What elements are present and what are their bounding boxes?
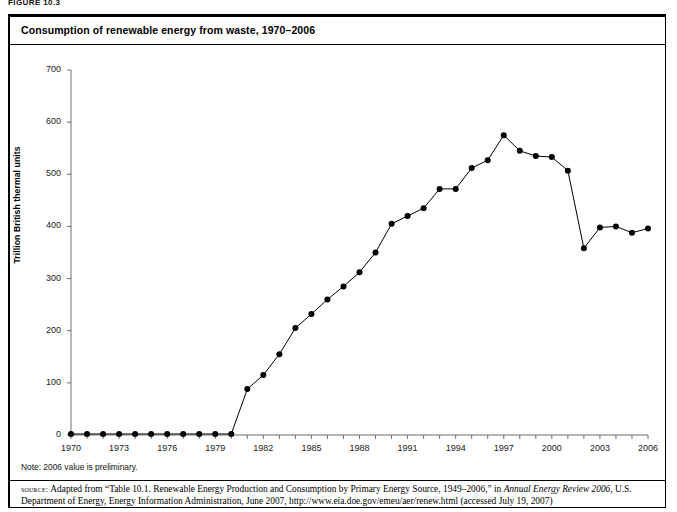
data-point xyxy=(308,311,314,317)
y-tick-label: 400 xyxy=(27,220,61,230)
data-point xyxy=(244,386,250,392)
data-point xyxy=(164,431,170,437)
y-tick-label: 100 xyxy=(27,377,61,387)
source-italic-2: 2006 xyxy=(592,484,611,494)
data-point xyxy=(485,157,491,163)
data-point xyxy=(453,186,459,192)
x-tick-label: 1985 xyxy=(291,443,331,453)
data-point xyxy=(196,431,202,437)
data-point xyxy=(100,431,106,437)
data-point xyxy=(84,431,90,437)
y-tick-label: 500 xyxy=(27,168,61,178)
data-point xyxy=(421,205,427,211)
chart-note: Note: 2006 value is preliminary. xyxy=(21,462,138,472)
data-point xyxy=(132,431,138,437)
y-tick-label: 700 xyxy=(27,64,61,74)
data-point xyxy=(260,372,266,378)
data-point xyxy=(340,283,346,289)
x-tick-label: 1988 xyxy=(340,443,380,453)
y-tick-label: 300 xyxy=(27,273,61,283)
bottom-divider-rule xyxy=(8,507,666,508)
x-tick-label: 1994 xyxy=(436,443,476,453)
data-point xyxy=(437,186,443,192)
data-point xyxy=(324,296,330,302)
x-tick-label: 1979 xyxy=(195,443,235,453)
x-tick-label: 1982 xyxy=(243,443,283,453)
x-tick-label: 1970 xyxy=(51,443,91,453)
x-tick-label: 1976 xyxy=(147,443,187,453)
tick-marks-group xyxy=(67,70,648,439)
data-point xyxy=(501,132,507,138)
axes-group xyxy=(71,70,648,435)
x-tick-label: 1991 xyxy=(388,443,428,453)
data-point-markers xyxy=(68,132,651,437)
data-point xyxy=(629,230,635,236)
y-axis-title: Trillion British thermal units xyxy=(12,125,22,285)
x-tick-label: 1997 xyxy=(484,443,524,453)
x-tick-label: 2000 xyxy=(532,443,572,453)
data-point xyxy=(292,325,298,331)
data-point xyxy=(645,226,651,232)
data-point xyxy=(517,148,523,154)
x-tick-label: 2006 xyxy=(628,443,668,453)
chart-plot-area: Trillion British thermal units 010020030… xyxy=(0,0,677,470)
data-point xyxy=(116,431,122,437)
y-tick-label: 600 xyxy=(27,116,61,126)
data-point xyxy=(597,224,603,230)
data-point xyxy=(613,223,619,229)
x-tick-label: 1973 xyxy=(99,443,139,453)
data-point xyxy=(228,431,234,437)
data-point xyxy=(581,245,587,251)
data-point xyxy=(68,431,74,437)
note-divider-rule xyxy=(8,480,666,481)
line-chart xyxy=(0,0,677,470)
data-point xyxy=(469,165,475,171)
x-tick-label: 2003 xyxy=(580,443,620,453)
y-tick-label: 0 xyxy=(27,429,61,439)
y-tick-label: 200 xyxy=(27,325,61,335)
data-point xyxy=(180,431,186,437)
data-point xyxy=(373,250,379,256)
data-point xyxy=(148,431,154,437)
data-point xyxy=(357,269,363,275)
data-point xyxy=(565,168,571,174)
data-point xyxy=(549,154,555,160)
data-point xyxy=(276,351,282,357)
chart-source: source: Adapted from “Table 10.1. Renewa… xyxy=(21,484,655,507)
data-series-line xyxy=(71,135,648,434)
data-point xyxy=(405,213,411,219)
data-point xyxy=(212,431,218,437)
source-italic-1: Annual Energy Review xyxy=(504,484,590,494)
data-point xyxy=(533,153,539,159)
data-point xyxy=(389,221,395,227)
source-keyword: source: xyxy=(21,484,48,494)
source-text-1: Adapted from “Table 10.1. Renewable Ener… xyxy=(48,484,503,494)
